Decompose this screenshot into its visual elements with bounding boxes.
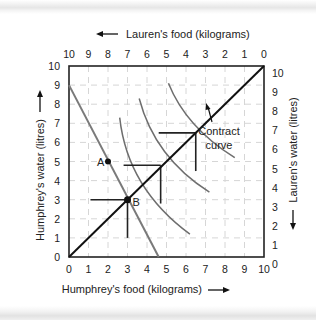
left-axis-tick: 8 <box>54 98 60 110</box>
arrow-down-icon <box>290 223 296 230</box>
bottom-axis-tick: 9 <box>242 263 248 275</box>
top-axis-tick: 3 <box>203 48 209 60</box>
right-axis-tick: 5 <box>272 163 278 175</box>
bottom-axis-tick: 8 <box>222 263 228 275</box>
left-axis-tick: 7 <box>54 117 60 129</box>
arrow-right-icon <box>223 287 230 293</box>
top-axis-tick: 1 <box>242 48 248 60</box>
left-axis-tick: 0 <box>54 251 60 263</box>
bottom-axis-tick: 4 <box>144 263 150 275</box>
left-axis-label: Humphrey's water (litres) <box>34 119 46 241</box>
right-axis-label: Lauren's water (litres) <box>287 97 299 202</box>
right-axis-tick: 4 <box>272 182 278 194</box>
left-axis-tick: 2 <box>54 213 60 225</box>
top-axis-tick: 4 <box>183 48 189 60</box>
bottom-axis-tick: 0 <box>66 263 72 275</box>
point-label-b: B <box>133 196 140 208</box>
left-axis-tick: 3 <box>54 194 60 206</box>
top-axis-tick: 5 <box>164 48 170 60</box>
right-axis-tick: 10 <box>272 67 284 79</box>
arrow-left-icon <box>96 31 103 37</box>
top-axis-tick: 10 <box>63 48 75 60</box>
top-axis-tick: 2 <box>222 48 228 60</box>
right-axis-tick: 8 <box>272 105 278 117</box>
budget-line <box>69 85 159 257</box>
top-axis-label: Lauren's food (kilograms) <box>126 28 250 40</box>
right-axis-tick: 2 <box>272 220 278 232</box>
arrow-icon <box>206 103 211 110</box>
right-axis-tick: 9 <box>272 86 278 98</box>
right-axis-tick: 0 <box>272 258 278 270</box>
bottom-axis-tick: 5 <box>164 263 170 275</box>
left-axis-tick: 5 <box>54 156 60 168</box>
right-axis-tick: 1 <box>272 239 278 251</box>
point-b <box>124 196 131 203</box>
right-axis-tick: 3 <box>272 201 278 213</box>
contract-curve-label: Contract <box>198 125 240 137</box>
arrow-up-icon <box>37 90 43 97</box>
top-axis-tick: 9 <box>86 48 92 60</box>
left-axis-tick: 4 <box>54 175 60 187</box>
left-axis-tick: 10 <box>48 60 60 72</box>
top-axis-tick: 6 <box>144 48 150 60</box>
left-axis-tick: 9 <box>54 79 60 91</box>
bottom-axis-tick: 7 <box>203 263 209 275</box>
bottom-axis-tick: 6 <box>183 263 189 275</box>
point-label-a: A <box>97 156 105 168</box>
edgeworth-box-diagram: ContractcurveAB1098765432100123456789100… <box>0 0 316 320</box>
indifference-curve-humphrey <box>120 118 190 235</box>
point-a <box>105 159 111 165</box>
contract-curve-label: curve <box>206 139 233 151</box>
bottom-axis-tick: 3 <box>125 263 131 275</box>
bottom-axis-tick: 10 <box>258 263 270 275</box>
right-axis-tick: 6 <box>272 143 278 155</box>
bottom-axis-tick: 1 <box>86 263 92 275</box>
top-axis-tick: 7 <box>125 48 131 60</box>
right-axis-tick: 7 <box>272 124 278 136</box>
bottom-axis-tick: 2 <box>105 263 111 275</box>
left-axis-tick: 6 <box>54 136 60 148</box>
top-axis-tick: 8 <box>105 48 111 60</box>
left-axis-tick: 1 <box>54 232 60 244</box>
top-axis-tick: 0 <box>261 48 267 60</box>
bottom-axis-label: Humphrey's food (kilograms) <box>62 283 202 295</box>
